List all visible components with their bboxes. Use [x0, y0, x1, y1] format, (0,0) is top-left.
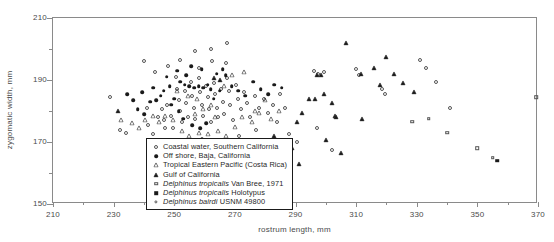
data-point [295, 140, 299, 144]
data-point [179, 80, 183, 84]
data-point [178, 58, 182, 62]
data-point [253, 94, 257, 98]
data-point [169, 103, 173, 107]
data-point [410, 120, 414, 124]
legend-symbol-circle-filled-icon [151, 151, 163, 160]
legend-item: Delphinus tropicalis Van Bree, 1971 [151, 179, 287, 188]
data-point [174, 75, 178, 79]
data-point [259, 88, 263, 92]
data-point [211, 76, 216, 81]
data-point [151, 86, 155, 90]
data-point [224, 74, 228, 78]
legend-symbol-square-open-icon [151, 179, 163, 188]
data-point [182, 117, 186, 121]
data-point [193, 49, 197, 53]
data-point [222, 84, 227, 89]
data-point [201, 114, 205, 118]
data-point [192, 86, 196, 90]
data-point [200, 67, 204, 71]
data-point [189, 64, 193, 68]
legend-symbol-circle-open-small-icon [151, 197, 163, 206]
data-point [343, 40, 348, 45]
data-point [206, 95, 210, 99]
data-point [329, 101, 334, 106]
data-point [207, 107, 211, 111]
x-axis-tick [538, 202, 539, 207]
data-point [231, 118, 235, 122]
data-point [323, 138, 328, 143]
data-point [192, 106, 196, 110]
data-point [254, 128, 258, 132]
data-point [129, 121, 134, 126]
data-point [307, 96, 312, 101]
data-point [201, 107, 206, 112]
data-point [358, 71, 363, 76]
data-point [162, 89, 166, 93]
data-point [263, 98, 268, 103]
legend-item: Coastal water, Southern California [151, 142, 287, 151]
data-point [221, 100, 225, 104]
data-point [244, 94, 248, 98]
data-point [170, 118, 175, 123]
data-point [234, 83, 238, 87]
legend-symbol-triangle-filled-icon [151, 170, 163, 179]
y-axis-title: zygomatic width, mm [5, 71, 14, 149]
legend-symbol-circle-open-icon [151, 142, 163, 151]
x-axis-minor-tick [144, 202, 145, 205]
x-axis-title: rostrum length, mm [258, 225, 331, 234]
y-axis-minor-tick [49, 173, 53, 174]
data-point [191, 123, 195, 127]
data-point [210, 59, 214, 63]
legend-item-label: Delphinus tropicalis Van Bree, 1971 [163, 179, 283, 188]
data-point [108, 95, 112, 99]
data-point [118, 128, 122, 132]
data-point [213, 92, 217, 96]
data-point [271, 103, 275, 107]
data-point [338, 150, 343, 155]
data-point [213, 115, 218, 120]
data-point [215, 106, 219, 110]
data-point [188, 84, 192, 88]
data-point [212, 97, 216, 101]
data-point [132, 98, 136, 102]
data-point [204, 122, 208, 126]
data-point [212, 81, 216, 85]
data-point [225, 41, 229, 45]
data-point [208, 102, 213, 107]
x-axis-tick [356, 202, 357, 207]
data-point [216, 129, 221, 134]
data-point [209, 88, 213, 92]
x-axis-minor-tick [447, 202, 448, 205]
data-point [266, 111, 270, 115]
data-point [163, 113, 168, 118]
data-point [146, 123, 150, 127]
data-point [230, 84, 234, 88]
x-axis-tick [417, 202, 418, 207]
data-point [330, 148, 334, 152]
data-point [175, 88, 180, 93]
x-axis-minor-tick [508, 202, 509, 205]
x-axis-tick-label: 310 [341, 211, 371, 219]
legend-item-label: Coastal water, Southern California [163, 142, 279, 151]
legend-item: Tropical Eastern Pacific (Costa Rica) [151, 160, 287, 169]
y-axis-tick [47, 80, 53, 81]
data-point [424, 66, 428, 70]
data-point [241, 70, 246, 75]
data-point [162, 118, 166, 122]
data-point [378, 82, 383, 87]
data-point [495, 159, 499, 163]
y-axis-minor-tick [49, 49, 53, 50]
data-point [280, 86, 284, 90]
data-point [272, 83, 276, 87]
data-point [165, 103, 169, 107]
data-point [252, 109, 257, 114]
data-point [221, 67, 225, 71]
chart-root: zygomatic width, mm rostrum length, mm 1… [0, 0, 554, 242]
data-point [334, 115, 339, 120]
data-point [183, 83, 187, 87]
data-point [283, 106, 287, 110]
data-point [224, 61, 228, 65]
data-point [205, 132, 210, 137]
data-point [296, 161, 301, 166]
x-axis-tick-label: 210 [38, 211, 68, 219]
